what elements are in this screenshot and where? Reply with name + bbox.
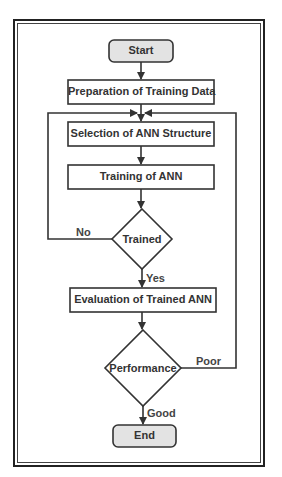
edge-label-good: Good	[147, 407, 176, 419]
end-label: End	[113, 429, 176, 441]
selection-label: Selection of ANN Structure	[68, 127, 214, 139]
edge-label-yes: Yes	[146, 272, 165, 284]
start-label: Start	[109, 44, 173, 56]
training-label: Training of ANN	[68, 170, 214, 182]
edge-label-no: No	[76, 226, 91, 238]
performance-label: Performance	[105, 362, 181, 374]
prep-label: Preparation of Training Data	[68, 85, 214, 97]
edge-label-poor: Poor	[196, 355, 221, 367]
evaluation-label: Evaluation of Trained ANN	[70, 293, 216, 305]
trained-label: Trained	[112, 233, 172, 245]
